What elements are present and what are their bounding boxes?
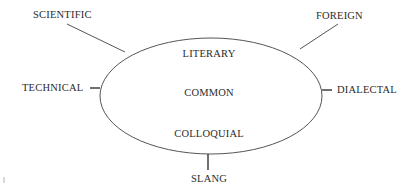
label-scientific: SCIENTIFIC: [33, 10, 92, 21]
diagram-canvas: SCIENTIFIC FOREIGN TECHNICAL DIALECTAL S…: [0, 0, 418, 195]
label-technical: TECHNICAL: [22, 83, 83, 94]
scan-artifact: [3, 177, 5, 183]
label-foreign: FOREIGN: [316, 11, 363, 22]
label-common: COMMON: [184, 88, 234, 99]
label-colloquial: COLLOQUIAL: [174, 129, 244, 140]
label-literary: LITERARY: [183, 49, 236, 60]
label-dialectal: DIALECTAL: [337, 85, 397, 96]
foreign-connector-line: [300, 24, 338, 49]
scientific-connector-line: [67, 24, 125, 52]
label-slang: SLANG: [191, 174, 227, 185]
